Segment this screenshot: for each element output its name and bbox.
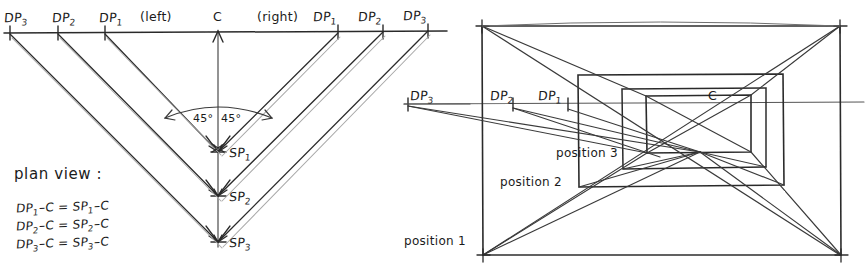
- plan-label-left-side: (left): [140, 9, 172, 24]
- plan-label-dp2-right: DP2: [358, 9, 382, 27]
- persp-label-position-3: position 3: [556, 146, 618, 160]
- plan-equation-3: DP3–C = SP3–C: [16, 236, 109, 255]
- plan-picture-plane-line: [4, 31, 447, 33]
- angle-label-right: 45°: [221, 112, 241, 125]
- rect-position-3: [622, 88, 766, 169]
- plan-label-sp3: SP3: [229, 235, 251, 253]
- plan-label-dp1-right: DP1: [313, 9, 337, 27]
- angle-label-left: 45°: [193, 112, 213, 125]
- inner-rect-diagonals: [646, 95, 751, 153]
- persp-label-center-c: C: [708, 88, 717, 103]
- persp-label-position-2: position 2: [500, 175, 562, 189]
- plan-label-center-c: C: [213, 9, 222, 24]
- persp-label-dp2: DP2: [490, 88, 514, 106]
- sightline-dp2-right-to-sp2: [218, 32, 383, 196]
- plan-label-right-side: (right): [257, 9, 298, 24]
- plan-label-dp2-left: DP2: [52, 10, 76, 28]
- persp-label-position-1: position 1: [404, 234, 466, 248]
- plan-label-dp3-right: DP3: [403, 8, 427, 26]
- perspective-view-group: [404, 20, 864, 262]
- plan-view-heading: plan view :: [14, 165, 102, 183]
- plan-label-sp1: SP1: [229, 145, 251, 163]
- cluster-to-corner-rays: [483, 152, 841, 255]
- dp-convergence-rays: [408, 106, 700, 157]
- persp-label-dp1: DP1: [538, 88, 562, 106]
- center-diagonals: [482, 26, 840, 255]
- perspective-horizon-line: [404, 102, 864, 104]
- plan-label-dp3-left: DP3: [4, 10, 28, 28]
- perspective-construction-figure: DP3 DP2 DP1 (left) C (right) DP1 DP2 DP3…: [0, 0, 865, 276]
- sightline-dp1-right-to-sp1: [218, 33, 338, 152]
- plan-label-sp2: SP2: [229, 189, 251, 207]
- persp-label-dp3: DP3: [410, 88, 434, 106]
- sightline-dp3-right-to-sp3: [218, 31, 428, 242]
- plan-label-dp1-left: DP1: [99, 10, 123, 28]
